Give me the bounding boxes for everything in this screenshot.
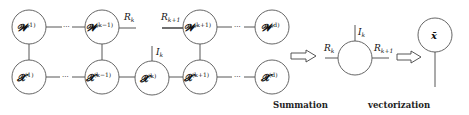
node-wkp1: 𝓦(k+1) (183, 10, 217, 44)
vectorization-caption: vectorization (367, 100, 430, 110)
rk1-label: Rk+1 (160, 12, 180, 23)
node-wd: 𝓦(d) (255, 10, 289, 44)
svg-text:Rk+1: Rk+1 (373, 43, 393, 54)
arrow-right-icon (397, 51, 421, 63)
svg-text:···: ··· (63, 23, 70, 31)
vector-node: x̄ (418, 18, 452, 87)
top-row-edges: ··· ··· (46, 23, 255, 31)
summation-caption: Summation (273, 100, 328, 110)
vertical-edges (29, 44, 200, 61)
tensor-network-diagram: ··· ··· ··· ··· 𝓦(1) 𝓦(k−1) 𝓦(k+1) (0, 0, 469, 115)
svg-text:···: ··· (62, 73, 69, 81)
node-x1: 𝓧(1) (12, 60, 46, 94)
node-wkm1: 𝓦(k−1) (85, 10, 119, 44)
rk-label: Rk (123, 12, 135, 23)
summation-node: Rk Rk+1 Ik (323, 25, 393, 75)
node-xd: 𝓧(d) (255, 60, 289, 94)
node-xkm1: 𝓧(k−1) (85, 60, 119, 94)
svg-text:···: ··· (234, 23, 241, 31)
node-xkp1: 𝓧(k+1) (183, 60, 217, 94)
svg-text:x̄: x̄ (430, 30, 438, 41)
node-xk: 𝓧(k) (135, 61, 169, 95)
ik-label: Ik (155, 47, 164, 58)
arrow-right-icon (291, 50, 316, 62)
svg-text:Rk: Rk (323, 43, 335, 54)
svg-text:···: ··· (234, 73, 241, 81)
svg-text:Ik: Ik (357, 27, 366, 38)
node-w1: 𝓦(1) (12, 10, 46, 44)
